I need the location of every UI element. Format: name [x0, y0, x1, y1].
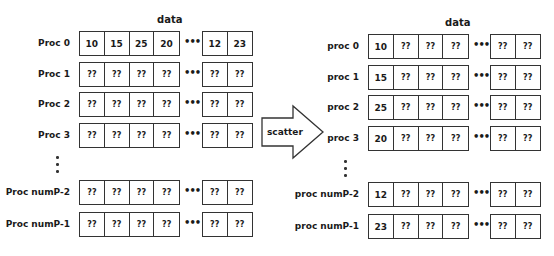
scatter-label: scatter: [267, 127, 303, 137]
